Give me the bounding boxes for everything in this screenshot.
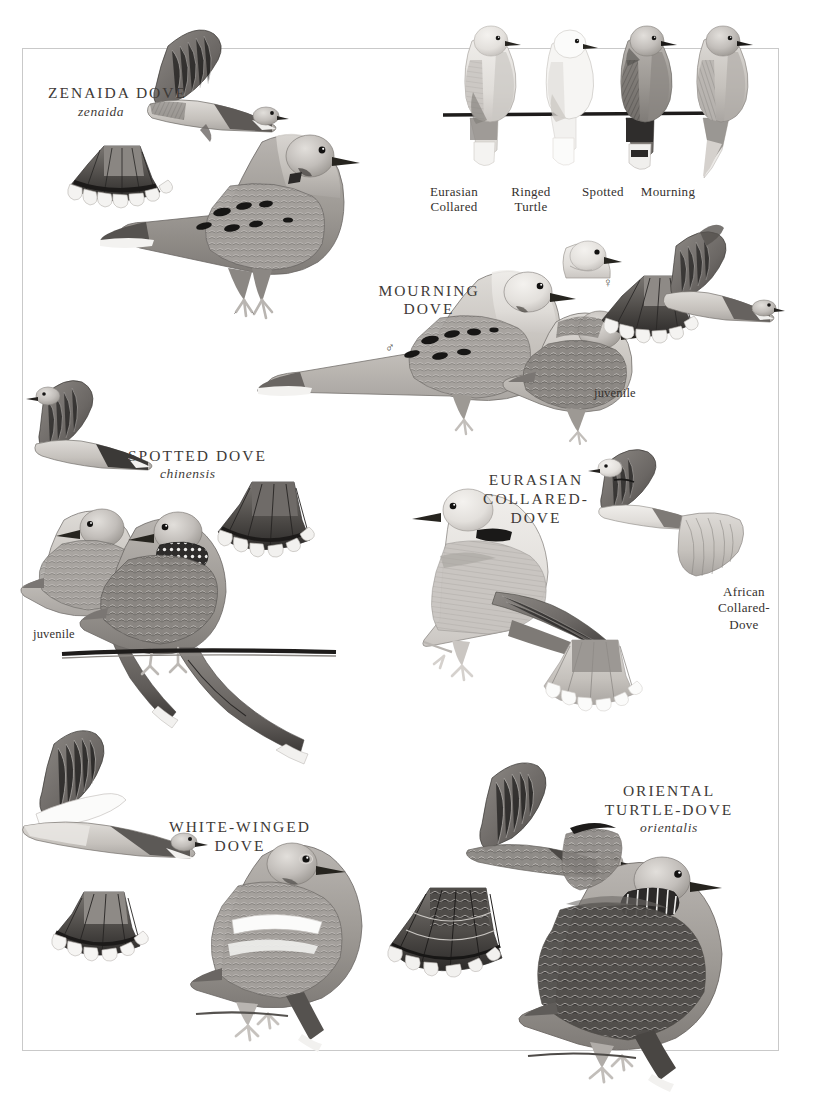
white-winged-tail-fan bbox=[52, 892, 149, 961]
label-eurasian-collared-dove: EURASIAN COLLARED- DOVE bbox=[462, 471, 610, 528]
label-oriental-subspecies: orientalis bbox=[580, 820, 758, 836]
label-african-collared-dove: African Collared- Dove bbox=[700, 584, 788, 633]
mourning-flying bbox=[663, 225, 785, 322]
label-zenaida-dove: ZENAIDA DOVE bbox=[48, 84, 187, 102]
spotted-tail-fan bbox=[218, 482, 315, 557]
label-perched-mourning: Mourning bbox=[632, 184, 704, 199]
oriental-tail-fan bbox=[388, 888, 502, 977]
label-zenaida-subspecies: zenaida bbox=[78, 104, 124, 120]
label-spotted-dove: SPOTTED DOVE bbox=[128, 447, 267, 465]
field-guide-plate: ZENAIDA DOVE zenaida Eurasian Collared R… bbox=[0, 0, 836, 1101]
label-spotted-subspecies: chinensis bbox=[160, 466, 216, 482]
spotted-dove-group bbox=[21, 381, 336, 764]
label-spotted-juvenile: juvenile bbox=[33, 627, 75, 642]
zenaida-tail-fan bbox=[68, 146, 173, 208]
label-perched-spotted: Spotted bbox=[572, 184, 634, 199]
label-mourning-dove: MOURNING DOVE bbox=[370, 282, 488, 319]
label-mourning-juvenile: juvenile bbox=[594, 386, 636, 401]
symbol-female: ♀ bbox=[603, 275, 613, 291]
label-white-winged-dove: WHITE-WINGED DOVE bbox=[140, 818, 340, 856]
bird-illustrations bbox=[0, 0, 836, 1101]
african-collared-dove bbox=[588, 450, 744, 576]
label-oriental-turtle-dove: ORIENTAL TURTLE-DOVE bbox=[580, 782, 758, 819]
perched-doves-group bbox=[443, 26, 753, 178]
mourning-dove-group bbox=[257, 225, 785, 444]
label-perched-ringed-turtle: Ringed Turtle bbox=[500, 184, 562, 215]
label-perched-eurasian-collared: Eurasian Collared bbox=[418, 184, 490, 215]
symbol-male: ♂ bbox=[385, 340, 395, 356]
white-winged-dove-group bbox=[23, 731, 363, 1052]
